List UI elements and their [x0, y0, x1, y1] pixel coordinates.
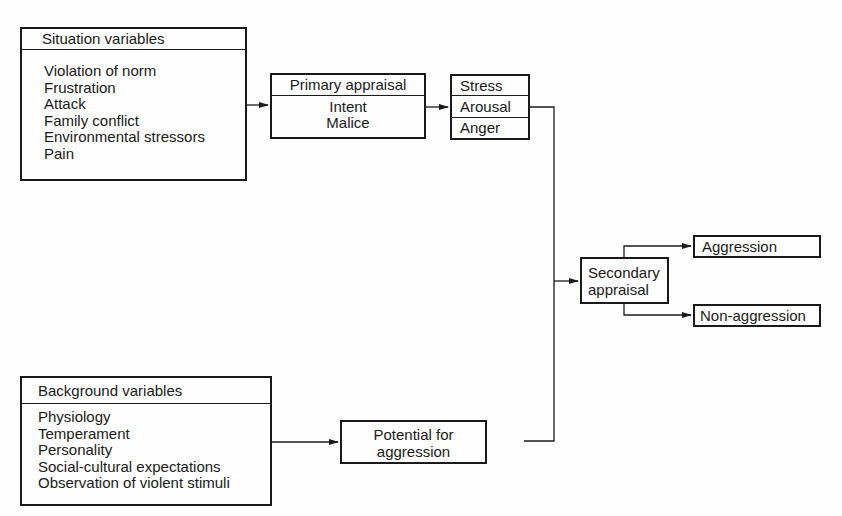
non-aggression-box: Non-aggression [693, 304, 821, 327]
potential-line1: Potential for [342, 426, 485, 443]
arrow-to-non-aggression [624, 303, 691, 315]
list-item: Pain [44, 146, 245, 163]
list-item: Physiology [38, 409, 270, 426]
list-item: Frustration [44, 80, 245, 97]
emotional-states-box: Stress Arousal Anger [450, 74, 530, 140]
potential-for-aggression-box: Potential for aggression [340, 420, 487, 464]
primary-appraisal-title: Primary appraisal [272, 75, 424, 96]
secondary-appraisal-line1: Secondary [588, 264, 667, 281]
list-item: Observation of violent stimuli [38, 475, 270, 492]
list-item: Environmental stressors [44, 129, 245, 146]
aggression-box: Aggression [693, 235, 821, 258]
situation-variables-box: Situation variables Violation of norm Fr… [20, 27, 247, 181]
list-item: Personality [38, 442, 270, 459]
potential-line2: aggression [342, 443, 485, 460]
state-stress: Stress [452, 76, 528, 96]
list-item: Family conflict [44, 113, 245, 130]
aggression-label: Aggression [702, 238, 777, 255]
primary-appraisal-list: Intent Malice [272, 96, 424, 131]
list-item: Violation of norm [44, 63, 245, 80]
situation-variables-title: Situation variables [22, 29, 245, 50]
secondary-appraisal-box: Secondary appraisal [580, 257, 669, 304]
non-aggression-label: Non-aggression [700, 307, 806, 324]
line-arousal-to-junction [524, 107, 554, 441]
state-anger: Anger [452, 118, 528, 138]
state-arousal: Arousal [452, 96, 528, 118]
background-variables-box: Background variables Physiology Temperam… [20, 376, 272, 506]
background-variables-list: Physiology Temperament Personality Socia… [22, 404, 270, 492]
list-item: Intent [272, 99, 424, 115]
situation-variables-list: Violation of norm Frustration Attack Fam… [22, 50, 245, 162]
list-item: Temperament [38, 426, 270, 443]
primary-appraisal-box: Primary appraisal Intent Malice [270, 73, 426, 139]
list-item: Social-cultural expectations [38, 459, 270, 476]
list-item: Attack [44, 96, 245, 113]
list-item: Malice [272, 115, 424, 131]
background-variables-title: Background variables [22, 378, 270, 404]
secondary-appraisal-line2: appraisal [588, 281, 667, 298]
